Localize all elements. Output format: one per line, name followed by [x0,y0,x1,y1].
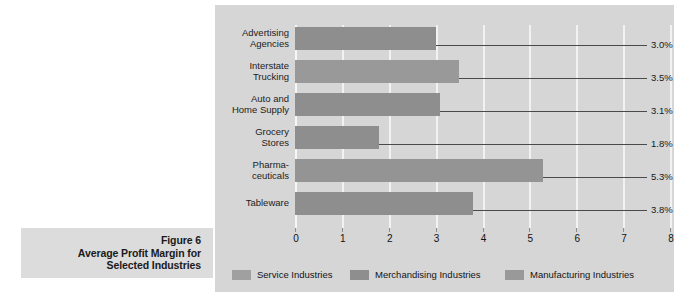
x-tick-label: 5 [520,233,540,244]
category-label-line: ceuticals [205,170,289,181]
value-label: 3.8% [651,204,673,215]
x-tick-label: 1 [333,233,353,244]
x-tick-label: 8 [661,233,681,244]
legend-swatch [505,270,524,280]
bar[interactable] [295,93,440,116]
x-tick-mark [295,228,296,232]
x-tick-mark [670,228,671,232]
gridline-4 [483,25,485,228]
legend-swatch [232,270,251,280]
category-label-line: Interstate [205,60,289,71]
category-label: AdvertisingAgencies [205,27,289,49]
category-label-line: Grocery [205,126,289,137]
category-label: Pharma-ceuticals [205,159,289,181]
legend-label: Service Industries [257,269,333,280]
legend-swatch [350,270,369,280]
value-label: 5.3% [651,171,673,182]
legend-label: Merchandising Industries [375,269,481,280]
category-label-line: Tableware [205,197,289,208]
legend-item[interactable]: Merchandising Industries [350,269,481,280]
gridline-6 [576,25,578,228]
leader-line [473,210,647,211]
bar[interactable] [295,60,459,83]
category-label-line: Trucking [205,71,289,82]
x-tick-mark [342,228,343,232]
figure-caption: Figure 6 Average Profit Margin for Selec… [21,228,213,278]
category-label-line: Stores [205,137,289,148]
gridline-5 [529,25,531,228]
x-tick-mark [436,228,437,232]
bar[interactable] [295,192,473,215]
x-tick-label: 0 [286,233,306,244]
value-label: 3.5% [651,72,673,83]
x-tick-mark [576,228,577,232]
x-tick-mark [389,228,390,232]
bar[interactable] [295,159,543,182]
x-tick-mark [483,228,484,232]
value-label: 3.0% [651,39,673,50]
legend-item[interactable]: Manufacturing Industries [505,269,634,280]
x-tick-mark [529,228,530,232]
figure-title-line-1: Average Profit Margin for [29,247,201,260]
category-label-line: Agencies [205,38,289,49]
gridline-8 [670,25,672,228]
bar[interactable] [295,27,436,50]
leader-line [543,177,647,178]
leader-line [440,111,647,112]
value-label: 1.8% [651,138,673,149]
x-tick-label: 7 [614,233,634,244]
value-label: 3.1% [651,105,673,116]
category-label-line: Advertising [205,27,289,38]
x-tick-label: 2 [380,233,400,244]
category-label-line: Pharma- [205,159,289,170]
legend-label: Manufacturing Industries [530,269,634,280]
category-label-line: Home Supply [205,104,289,115]
category-label: InterstateTrucking [205,60,289,82]
leader-line [379,144,647,145]
chart-panel: AdvertisingAgenciesInterstateTruckingAut… [215,5,674,292]
category-label-line: Auto and [205,93,289,104]
category-label: Auto andHome Supply [205,93,289,115]
x-tick-label: 4 [474,233,494,244]
figure-number: Figure 6 [29,234,201,247]
chart-legend: Service IndustriesMerchandising Industri… [215,269,674,285]
x-tick-label: 6 [567,233,587,244]
plot-area: AdvertisingAgenciesInterstateTruckingAut… [215,5,674,292]
category-label: Tableware [205,197,289,208]
bar[interactable] [295,126,379,149]
gridline-7 [623,25,625,228]
leader-line [436,45,647,46]
x-tick-label: 3 [427,233,447,244]
legend-item[interactable]: Service Industries [232,269,333,280]
figure-title-line-2: Selected Industries [29,259,201,272]
leader-line [459,78,647,79]
category-label: GroceryStores [205,126,289,148]
x-tick-mark [623,228,624,232]
